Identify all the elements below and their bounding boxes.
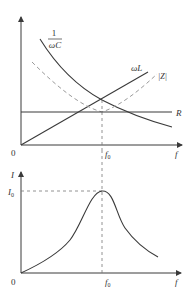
capacitive-label-denominator: ωC [49, 40, 62, 50]
top-x-axis-label: f [175, 149, 179, 159]
capacitive-reactance-curve [40, 39, 172, 127]
inductive-reactance-line [21, 72, 148, 145]
bottom-resonance-label: f0 [105, 277, 111, 288]
peak-label: I0 [7, 187, 14, 198]
top-chart: 1 ωC ωL |Z| R 0 f0 f [11, 17, 182, 160]
bottom-x-axis-label: f [175, 277, 179, 287]
bottom-origin-label: 0 [11, 277, 16, 287]
rlc-resonance-diagram: 1 ωC ωL |Z| R 0 f0 f I I0 0 f0 f [0, 0, 192, 297]
top-resonance-label: f0 [105, 149, 111, 160]
capacitive-label-numerator: 1 [52, 28, 57, 38]
bottom-chart: I I0 0 f0 f [7, 150, 181, 288]
bottom-y-axis-label: I [10, 170, 15, 180]
top-origin-label: 0 [11, 148, 16, 158]
resistance-label: R [175, 108, 182, 118]
inductive-label: ωL [131, 63, 142, 73]
current-resonance-curve [21, 191, 158, 273]
impedance-label: |Z| [158, 72, 167, 81]
